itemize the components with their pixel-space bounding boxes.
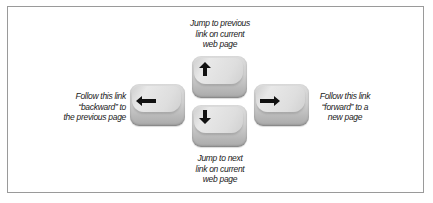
up-key-label: Jump to previous link on current web pag… [180,18,260,50]
down-label-line-1: Jump to next [180,153,260,164]
left-label-line-3: the previous page [62,112,126,123]
right-arrow-key [254,84,309,126]
left-label-line-1: Follow this link [62,91,126,102]
left-arrow-key [130,84,185,126]
arrow-right-icon [260,96,280,106]
right-label-line-2: “forward” to a [310,102,380,113]
down-label-line-2: link on current [180,164,260,175]
up-label-line-3: web page [180,39,260,50]
right-key-label: Follow this link “forward” to a new page [310,91,380,123]
down-arrow-key [192,105,247,147]
left-key-label: Follow this link “backward” to the previ… [62,91,126,123]
arrow-down-icon [199,110,211,124]
up-arrow-key [192,56,247,98]
arrow-left-icon [136,96,156,106]
right-label-line-1: Follow this link [310,91,380,102]
right-label-line-3: new page [310,112,380,123]
up-label-line-2: link on current [180,29,260,40]
down-key-label: Jump to next link on current web page [180,153,260,185]
arrow-up-icon [199,62,211,76]
down-label-line-3: web page [180,174,260,185]
up-label-line-1: Jump to previous [180,18,260,29]
left-label-line-2: “backward” to [62,102,126,113]
